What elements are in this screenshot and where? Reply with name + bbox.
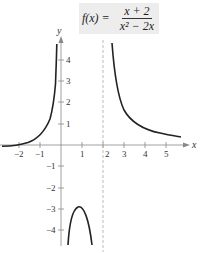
x-tick-label: −1 — [35, 149, 45, 159]
x-tick-label: 5 — [164, 149, 169, 159]
y-tick-label: −2 — [46, 183, 56, 193]
x-axis-label: x — [191, 139, 197, 150]
function-graph: x y −2 −1 1 2 3 4 5 1 2 3 4 −1 −2 −3 −4 — [0, 0, 204, 253]
y-axis-arrow-icon — [59, 36, 64, 43]
y-tick-label: −1 — [46, 161, 56, 171]
y-axis-label: y — [56, 25, 62, 36]
y-tick-label: −3 — [46, 204, 56, 214]
middle-branch-curve — [68, 207, 92, 245]
x-tick-label: 2 — [105, 149, 110, 159]
x-tick-label: 3 — [122, 149, 127, 159]
left-branch-curve — [2, 44, 57, 146]
x-tick-label: −2 — [14, 149, 24, 159]
x-tick-label: 1 — [80, 149, 85, 159]
y-tick-label: −4 — [46, 225, 56, 235]
y-tick-label: 1 — [66, 119, 71, 129]
x-tick-label: 4 — [143, 149, 148, 159]
y-tick-label: 2 — [66, 97, 71, 107]
right-branch-curve — [112, 43, 181, 137]
x-axis-arrow-icon — [183, 143, 190, 148]
y-tick-label: 4 — [66, 55, 71, 65]
y-tick-label: 3 — [66, 76, 71, 86]
